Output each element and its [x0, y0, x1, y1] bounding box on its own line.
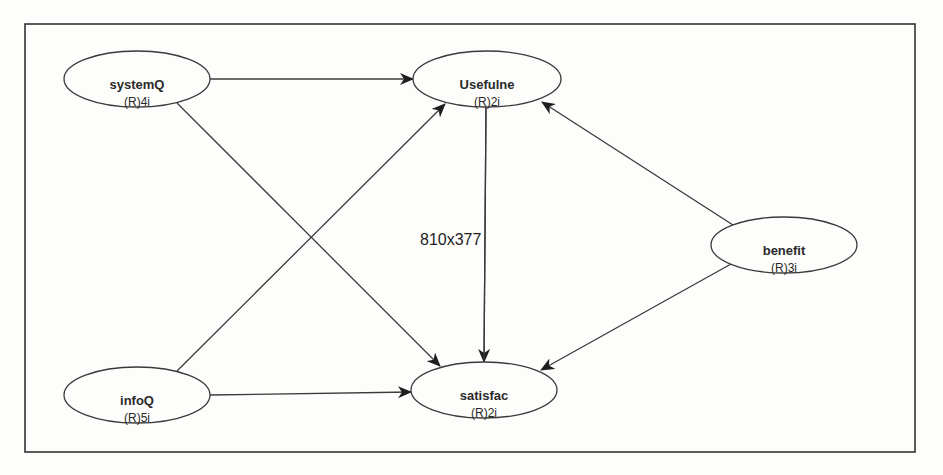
- edge-infoq-to-satisfac: [210, 392, 411, 395]
- node-indicator-count: (R)2i: [471, 406, 497, 420]
- node-infoq[interactable]: infoQ(R)5i: [64, 367, 210, 425]
- node-label: benefit: [763, 243, 806, 258]
- node-label: systemQ: [110, 77, 165, 92]
- path-diagram: systemQ(R)4iUsefulne(R)2ibenefit(R)3iinf…: [0, 0, 943, 475]
- node-systemq[interactable]: systemQ(R)4i: [64, 51, 210, 109]
- node-benefit[interactable]: benefit(R)3i: [711, 217, 857, 275]
- node-indicator-count: (R)2i: [474, 95, 500, 109]
- node-usefulne[interactable]: Usefulne(R)2i: [413, 51, 561, 109]
- node-indicator-count: (R)3i: [771, 261, 797, 275]
- node-satisfac[interactable]: satisfac(R)2i: [411, 362, 557, 420]
- node-indicator-count: (R)5i: [124, 411, 150, 425]
- edge-benefit-to-usefulne: [542, 102, 733, 225]
- node-indicator-count: (R)4i: [124, 95, 150, 109]
- edge-systemq-to-satisfac: [177, 103, 440, 366]
- edge-benefit-to-satisfac: [541, 264, 731, 370]
- node-label: infoQ: [120, 393, 154, 408]
- node-label: Usefulne: [460, 77, 515, 92]
- edge-usefulne-to-satisfac-overlay: [484, 107, 486, 362]
- node-label: satisfac: [460, 388, 508, 403]
- canvas-size-label: 810x377: [420, 231, 481, 248]
